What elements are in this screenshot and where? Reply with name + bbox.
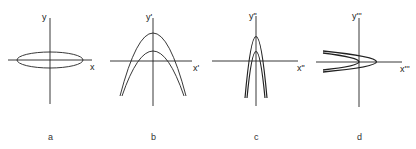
x-label-d: x''' — [400, 64, 410, 74]
caption-a: a — [48, 132, 53, 142]
y-label-d: y''' — [352, 11, 362, 21]
panel-b — [110, 18, 192, 106]
caption-c: c — [254, 132, 259, 142]
y-label-b: y' — [146, 12, 153, 22]
panel-a — [8, 18, 92, 104]
caption-d: d — [357, 132, 362, 142]
figure-canvas: y x y' x' y" x" y''' x''' a b c d — [0, 0, 416, 149]
y-label-c: y" — [249, 11, 257, 21]
x-label-a: x — [90, 62, 95, 72]
y-label-a: y — [42, 12, 47, 22]
x-label-b: x' — [193, 63, 200, 73]
panel-d — [316, 18, 402, 107]
x-label-c: x" — [297, 63, 305, 73]
panel-c — [212, 16, 298, 106]
inner-parabola-d — [323, 53, 359, 70]
caption-b: b — [151, 132, 156, 142]
